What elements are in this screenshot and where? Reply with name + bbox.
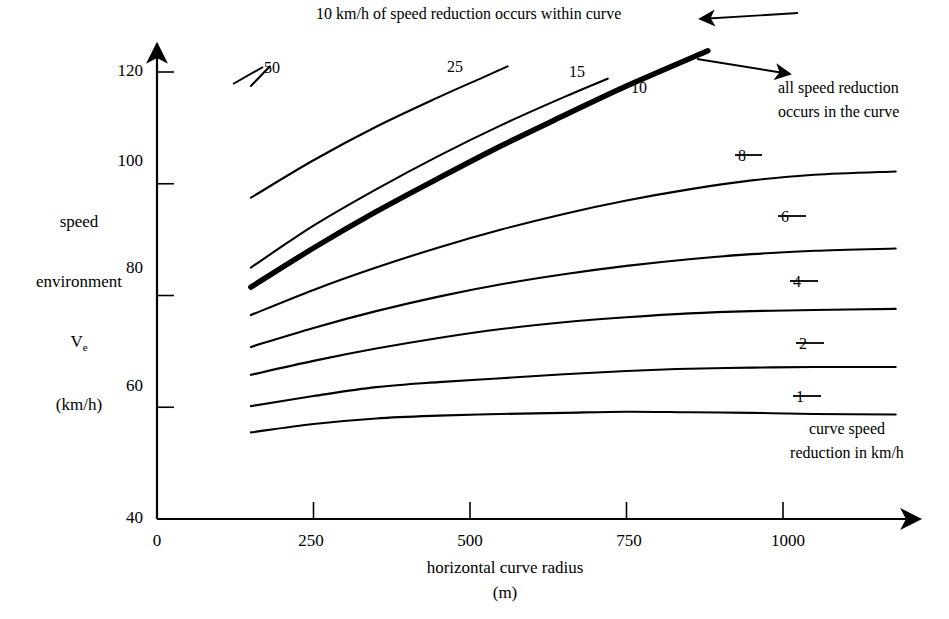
y-tick-marks <box>157 72 174 407</box>
annotation-arrows <box>697 13 798 74</box>
leader-line-50 <box>233 67 263 84</box>
annotation-right-note-line1: all speed reduction <box>778 79 899 98</box>
arrow-to-within-curve <box>700 13 798 19</box>
chart-figure: 120 100 80 60 40 0 250 500 750 1000 spee… <box>0 0 949 619</box>
y-axis-symbol-subscript-e: e <box>83 342 88 354</box>
annotation-right-note-line2: occurs in the curve <box>778 103 899 122</box>
curve-label-6: 6 <box>781 208 789 227</box>
curve-label-50: 50 <box>264 59 280 78</box>
x-tick-label-0: 0 <box>137 531 177 551</box>
curve-label-2: 2 <box>799 335 807 354</box>
curve-label-1: 1 <box>796 388 804 407</box>
y-axis-title-line4: (km/h) <box>8 395 150 415</box>
x-tick-label-750: 750 <box>605 531 653 551</box>
curve-label-15: 15 <box>569 63 585 82</box>
x-tick-label-1000: 1000 <box>760 531 816 551</box>
y-axis-symbol-V: V <box>70 332 82 351</box>
y-axis-title-line3: Ve <box>8 332 150 354</box>
contour-curve-25 <box>251 66 508 197</box>
contour-curve-15 <box>251 79 608 268</box>
y-axis-title-line2: environment <box>8 272 150 292</box>
x-axis-title-line2: (m) <box>345 583 665 603</box>
legend-caption-line2: reduction in km/h <box>752 444 942 463</box>
label-leader-lines <box>233 67 824 396</box>
curve-label-25: 25 <box>447 58 463 77</box>
y-tick-label-120: 120 <box>101 61 143 81</box>
x-tick-label-500: 500 <box>446 531 494 551</box>
curve-label-8: 8 <box>738 147 746 166</box>
x-axis-title-line1: horizontal curve radius <box>345 558 665 578</box>
curve-label-10: 10 <box>631 79 647 98</box>
x-tick-marks <box>314 502 784 519</box>
arrow-to-all-reduction <box>697 59 790 74</box>
y-tick-label-40: 40 <box>101 508 143 528</box>
contour-curve-8 <box>251 171 896 315</box>
curve-label-4: 4 <box>793 273 801 292</box>
y-axis-title: speed environment Ve (km/h) <box>8 172 150 455</box>
y-axis-title-line1: speed <box>8 212 150 232</box>
x-tick-label-250: 250 <box>287 531 335 551</box>
legend-caption-line1: curve speed <box>752 420 942 439</box>
y-tick-label-100: 100 <box>101 151 143 171</box>
contour-curve-6 <box>251 249 896 347</box>
annotation-top-note: 10 km/h of speed reduction occurs within… <box>316 5 621 24</box>
